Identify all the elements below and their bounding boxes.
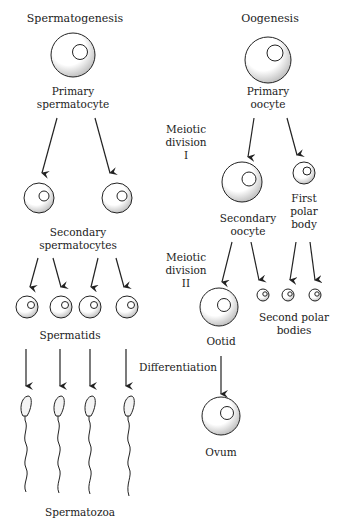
spermatozoa <box>21 396 134 496</box>
second-polar-body-cell <box>257 289 269 301</box>
secondary-spermatocyte-cell <box>102 183 132 213</box>
primary-oocyte-label: Primary oocyte <box>228 85 308 111</box>
first-polar-body-cell <box>293 162 315 184</box>
differentiation-label: Differentiation <box>133 361 223 374</box>
spermatid-cell <box>116 296 138 318</box>
ovum-label: Ovum <box>196 446 246 459</box>
secondary-spermatocyte-cell <box>24 183 54 213</box>
oogenesis-title: Oogenesis <box>220 12 320 25</box>
first-polar-body-label: First polar body <box>284 192 324 231</box>
second-polar-body-cell <box>309 289 321 301</box>
secondary-oocyte-label: Secondary oocyte <box>208 212 288 238</box>
primary-spermatocyte-cell <box>51 33 95 77</box>
second-polar-bodies-label: Second polar bodies <box>254 311 334 337</box>
ootid-label: Ootid <box>196 335 246 348</box>
arrow <box>30 258 38 287</box>
sperm-cell <box>124 396 134 496</box>
arrow <box>310 242 315 280</box>
spermatids-label: Spermatids <box>30 329 110 342</box>
spermatozoa-label: Spermatozoa <box>30 506 130 519</box>
ovum-cell <box>202 397 240 435</box>
meiotic-division-1-label: Meiotic division I <box>148 123 224 162</box>
arrow <box>95 118 110 173</box>
meiotic-division-2-label: Meiotic division II <box>148 251 224 290</box>
primary-spermatocyte-label: Primary spermatocyte <box>23 85 123 111</box>
primary-oocyte-cell <box>245 37 291 83</box>
secondary-oocyte-cell <box>222 162 262 202</box>
second-polar-body-cell <box>282 289 294 301</box>
arrow <box>91 258 98 287</box>
ootid-cell <box>200 288 238 326</box>
sperm-cell <box>85 396 95 494</box>
secondary-spermatocytes-label: Secondary spermatocytes <box>28 226 128 252</box>
arrow <box>290 242 296 280</box>
arrow <box>287 118 297 155</box>
arrow <box>248 118 254 157</box>
spermatid-cell <box>79 296 101 318</box>
spermatid-cell <box>50 296 72 318</box>
arrow <box>251 242 259 280</box>
arrow <box>53 258 61 287</box>
arrow <box>42 118 57 173</box>
spermatogenesis-title: Spermatogenesis <box>5 12 145 25</box>
arrow <box>116 258 124 287</box>
spermatid-cell <box>16 296 38 318</box>
sperm-cell <box>21 396 31 492</box>
sperm-cell <box>54 396 64 493</box>
